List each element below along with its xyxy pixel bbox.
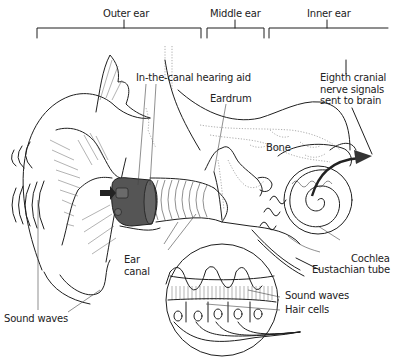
label-eustachian-tube: Eustachian tube: [312, 264, 390, 276]
ear-anatomy-diagram: Outer ear Middle ear Inner ear In-the-ca…: [0, 0, 395, 358]
hair-cells-inset: [166, 244, 300, 356]
hearing-aid-device: [100, 178, 157, 226]
label-sound-waves-outer: Sound waves: [4, 313, 68, 325]
section-label-middle-ear: Middle ear: [210, 8, 261, 20]
label-nerve-signals: Eighth cranial nerve signals sent to bra…: [320, 72, 386, 107]
label-hearing-aid: In-the-canal hearing aid: [136, 72, 251, 84]
label-ear-canal: Ear canal: [124, 254, 150, 277]
eustachian-tube: [252, 230, 320, 276]
sound-waves-icon: [11, 142, 44, 229]
label-hair-cells: Hair cells: [285, 304, 329, 316]
label-eardrum: Eardrum: [210, 93, 252, 105]
middle-ear-ossicles: [205, 147, 272, 220]
section-brackets: [37, 20, 388, 38]
section-label-inner-ear: Inner ear: [307, 8, 351, 20]
ear-illustration: [0, 0, 395, 358]
label-cochlea: Cochlea: [351, 253, 390, 265]
section-label-outer-ear: Outer ear: [103, 8, 149, 20]
label-bone: Bone: [266, 142, 291, 154]
label-sound-waves-inset: Sound waves: [285, 290, 349, 302]
